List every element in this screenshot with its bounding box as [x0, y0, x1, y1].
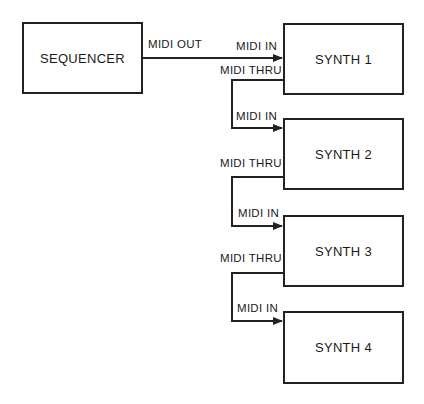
synth-4-box: SYNTH 4 [283, 311, 404, 384]
midi-out-label: MIDI OUT [148, 38, 202, 50]
synth-1-midi-thru-label: MIDI THRU [220, 64, 282, 76]
synth-1-label: SYNTH 1 [315, 52, 372, 67]
synth-2-midi-in-label: MIDI IN [236, 110, 277, 122]
synth-3-midi-in-label: MIDI IN [238, 207, 279, 219]
sequencer-box: SEQUENCER [22, 22, 143, 94]
synth-3-label: SYNTH 3 [315, 244, 372, 259]
synth-2-label: SYNTH 2 [315, 147, 372, 162]
synth-3-box: SYNTH 3 [283, 215, 404, 287]
synth-1-midi-in-label: MIDI IN [236, 40, 277, 52]
synth-2-midi-thru-label: MIDI THRU [220, 157, 282, 169]
synth-3-midi-thru-label: MIDI THRU [220, 252, 282, 264]
synth-2-box: SYNTH 2 [283, 118, 404, 190]
synth-4-label: SYNTH 4 [315, 340, 372, 355]
synth-1-box: SYNTH 1 [283, 23, 404, 95]
midi-daisy-chain-diagram: SEQUENCER SYNTH 1 SYNTH 2 SYNTH 3 SYNTH … [0, 0, 424, 404]
sequencer-label: SEQUENCER [40, 51, 125, 66]
synth-4-midi-in-label: MIDI IN [237, 302, 278, 314]
